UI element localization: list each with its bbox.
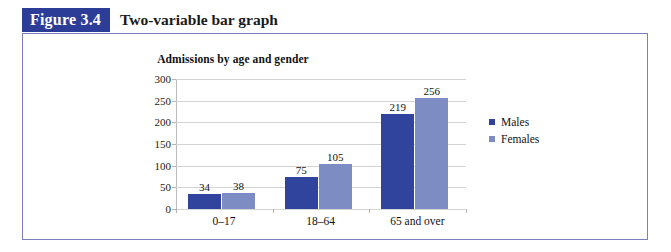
y-axis-tick-mark xyxy=(172,209,176,210)
y-axis-tick-label: 250 xyxy=(137,95,171,107)
bar-value-label: 105 xyxy=(327,151,344,163)
bar-males[interactable]: 34 xyxy=(188,194,221,209)
y-axis-tick-label: 300 xyxy=(137,73,171,85)
figure-number-badge: Figure 3.4 xyxy=(22,8,110,32)
bar-males[interactable]: 75 xyxy=(285,177,318,210)
bar-group: 34380–17 xyxy=(176,79,273,209)
plot-area: 34380–177510518–6421925665 and over xyxy=(176,79,466,209)
y-axis-tick-mark xyxy=(172,187,176,188)
legend-item-label: Males xyxy=(501,116,529,128)
y-axis-tick-labels: 050100150200250300 xyxy=(133,79,171,209)
bar-females[interactable]: 38 xyxy=(222,193,255,209)
bar-value-label: 38 xyxy=(233,180,244,192)
y-axis-tick-mark xyxy=(172,144,176,145)
y-axis-tick-label: 150 xyxy=(137,138,171,150)
bar-value-label: 75 xyxy=(296,164,307,176)
figure-header: Figure 3.4 Two-variable bar graph xyxy=(22,8,278,32)
y-axis-tick-label: 0 xyxy=(137,203,171,215)
y-axis-tick-label: 50 xyxy=(137,181,171,193)
x-axis-category-label: 65 and over xyxy=(369,215,465,227)
square-marker-icon xyxy=(489,136,495,142)
y-axis-tick-mark xyxy=(172,122,176,123)
legend-item[interactable]: Males xyxy=(489,113,609,130)
y-axis-tick-mark xyxy=(172,166,176,167)
bar-males[interactable]: 219 xyxy=(381,114,414,209)
figure-frame: Admissions by age and gender 05010015020… xyxy=(22,33,648,240)
bar-chart: Admissions by age and gender 05010015020… xyxy=(23,34,649,241)
bar-females[interactable]: 256 xyxy=(415,98,448,209)
x-axis-tick-mark xyxy=(273,209,274,213)
bar-value-label: 219 xyxy=(390,101,407,113)
gridline xyxy=(176,209,466,210)
y-axis-tick-label: 100 xyxy=(137,160,171,172)
x-axis-tick-mark xyxy=(466,209,467,213)
figure-caption: Two-variable bar graph xyxy=(110,8,278,32)
x-axis-category-label: 18–64 xyxy=(273,215,369,227)
bar-value-label: 256 xyxy=(424,85,441,97)
square-marker-icon xyxy=(489,119,495,125)
legend-item[interactable]: Females xyxy=(489,130,609,147)
x-axis-tick-mark xyxy=(176,209,177,213)
bar-females[interactable]: 105 xyxy=(319,164,352,210)
chart-title: Admissions by age and gender xyxy=(23,53,443,65)
legend-item-label: Females xyxy=(501,133,539,145)
bar-group: 21925665 and over xyxy=(369,79,466,209)
x-axis-category-label: 0–17 xyxy=(176,215,272,227)
y-axis-tick-label: 200 xyxy=(137,116,171,128)
bar-group: 7510518–64 xyxy=(273,79,370,209)
y-axis-tick-mark xyxy=(172,101,176,102)
chart-legend: MalesFemales xyxy=(489,113,609,147)
x-axis-tick-mark xyxy=(369,209,370,213)
y-axis-tick-mark xyxy=(172,79,176,80)
bar-value-label: 34 xyxy=(199,181,210,193)
